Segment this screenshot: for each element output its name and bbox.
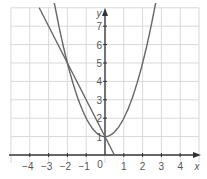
origin-label: 0 (97, 159, 103, 170)
chart: −4−3−2−1123412345670xy (0, 0, 207, 179)
x-tick-label: −4 (22, 161, 34, 172)
y-tick-label: 6 (96, 40, 102, 51)
x-tick-label: 2 (140, 161, 146, 172)
x-axis-label: x (194, 161, 201, 172)
y-tick-label: 2 (96, 113, 102, 124)
x-tick-label: −2 (60, 161, 72, 172)
y-tick-label: 5 (96, 58, 102, 69)
x-tick-label: −3 (41, 161, 53, 172)
y-tick-label: 3 (96, 95, 102, 106)
x-tick-label: 4 (177, 161, 183, 172)
y-axis-label: y (96, 8, 103, 19)
y-tick-label: 1 (96, 132, 102, 143)
x-tick-label: 3 (159, 161, 165, 172)
x-tick-label: 1 (121, 161, 127, 172)
y-tick-label: 7 (96, 21, 102, 32)
y-tick-label: 4 (96, 76, 102, 87)
x-tick-label: −1 (78, 161, 90, 172)
y-axis-arrow-icon (102, 8, 108, 16)
x-axis-arrow-icon (193, 152, 201, 158)
